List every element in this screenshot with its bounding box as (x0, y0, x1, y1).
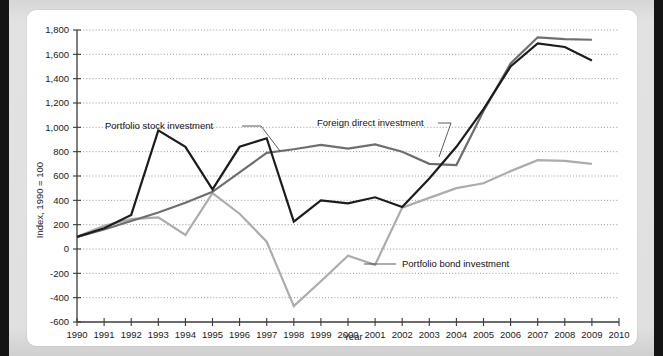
x-tick-label: 2003 (419, 329, 440, 340)
chart-svg: 1,8001,6001,4001,2001,0008006004002000-2… (27, 10, 637, 346)
y-tick-label: 600 (53, 170, 69, 181)
x-tick-label: 1990 (66, 329, 87, 340)
series-line-foreign-direct-investment (77, 37, 592, 237)
screenshot-root: 1,8001,6001,4001,2001,0008006004002000-2… (0, 0, 663, 356)
y-tick-label: 0 (64, 243, 69, 254)
x-tick-label: 2001 (365, 329, 386, 340)
x-tick-label: 2010 (608, 329, 629, 340)
line-chart: 1,8001,6001,4001,2001,0008006004002000-2… (27, 10, 637, 346)
x-tick-label: 1991 (94, 329, 115, 340)
series-line-portfolio-stock-investment (77, 43, 592, 236)
y-tick-label: 1,400 (45, 73, 69, 84)
y-tick-label: 800 (53, 146, 69, 157)
x-tick-label: 2004 (446, 329, 467, 340)
y-tick-label: -400 (50, 292, 69, 303)
y-tick-label: 1,000 (45, 122, 69, 133)
series-label-foreign-direct-investment: Foreign direct investment (317, 117, 424, 128)
x-tick-label: 2009 (581, 329, 602, 340)
series-line-portfolio-bond-investment (77, 160, 592, 306)
x-tick-label: 2008 (554, 329, 575, 340)
y-tick-label: 1,800 (45, 24, 69, 35)
x-axis-title: Year (343, 331, 362, 342)
x-tick-label: 1999 (310, 329, 331, 340)
x-tick-label: 2006 (500, 329, 521, 340)
series-label-portfolio-bond-investment: Portfolio bond investment (402, 258, 510, 269)
x-tick-label: 1997 (256, 329, 277, 340)
y-tick-label: 1,600 (45, 49, 69, 60)
x-tick-label: 1993 (148, 329, 169, 340)
x-tick-label: 2005 (473, 329, 494, 340)
leader-line-0 (242, 126, 280, 151)
grid-lines (77, 30, 619, 298)
x-tick-label: 2002 (392, 329, 413, 340)
x-tick-label: 1998 (283, 329, 304, 340)
x-tick-label: 1996 (229, 329, 250, 340)
x-tick-label: 1994 (175, 329, 196, 340)
y-axis-title: Index, 1990 = 100 (34, 162, 45, 238)
x-tick-label: 1995 (202, 329, 223, 340)
y-tick-labels: 1,8001,6001,4001,2001,0008006004002000-2… (45, 24, 69, 327)
figure-card: 1,8001,6001,4001,2001,0008006004002000-2… (27, 10, 637, 346)
series-paths (77, 37, 592, 306)
y-tick-label: -600 (50, 316, 69, 327)
y-tick-label: 1,200 (45, 97, 69, 108)
annotation-leader-lines (242, 123, 451, 264)
y-tick-label: 400 (53, 195, 69, 206)
series-label-portfolio-stock-investment: Portfolio stock investment (105, 120, 214, 131)
x-tick-label: 2007 (527, 329, 548, 340)
y-tick-label: 200 (53, 219, 69, 230)
x-tick-label: 1992 (121, 329, 142, 340)
y-tick-label: -200 (50, 268, 69, 279)
